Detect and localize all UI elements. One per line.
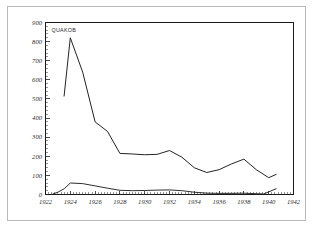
- y-tick-label: 700: [32, 57, 43, 64]
- y-tick-label: 100: [32, 172, 43, 179]
- x-tick-label: 1942: [287, 198, 301, 205]
- x-tick-label: 1922: [39, 198, 53, 205]
- x-tick-label: 1928: [113, 198, 127, 205]
- plot-frame: [46, 23, 294, 195]
- x-tick-label: 1938: [237, 198, 251, 205]
- chart-page: 0100200300400500600700800900 19221924192…: [0, 0, 314, 228]
- y-tick-label: 0: [39, 191, 43, 198]
- data-series-secondary: [53, 183, 276, 194]
- y-tick-label: 600: [32, 76, 43, 83]
- y-axis-ticks: [46, 23, 50, 195]
- x-tick-label: 1924: [64, 198, 78, 205]
- chart-figure: 0100200300400500600700800900 19221924192…: [0, 0, 314, 228]
- x-tick-label: 1934: [188, 198, 202, 205]
- y-tick-label: 900: [32, 19, 43, 26]
- x-tick-label: 1932: [163, 198, 177, 205]
- line-chart-svg: 0100200300400500600700800900 19221924192…: [0, 0, 314, 228]
- x-tick-label: 1926: [89, 198, 103, 205]
- x-tick-label: 1930: [138, 198, 152, 205]
- x-tick-label: 1936: [213, 198, 227, 205]
- y-tick-label: 300: [31, 133, 43, 140]
- data-series-quakob: [64, 38, 276, 178]
- y-axis-tick-labels: 0100200300400500600700800900: [31, 19, 43, 198]
- legend-label: QUAKOB: [52, 27, 77, 33]
- y-tick-label: 500: [32, 95, 43, 102]
- y-tick-label: 200: [32, 153, 43, 160]
- y-tick-label: 400: [32, 114, 43, 121]
- y-tick-label: 800: [32, 38, 43, 45]
- x-tick-label: 1940: [262, 198, 276, 205]
- x-axis-tick-labels: 1922192419261928193019321934193619381940…: [39, 198, 301, 205]
